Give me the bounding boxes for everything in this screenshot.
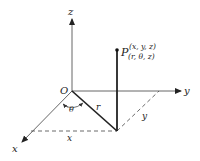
- point-p: [115, 48, 119, 52]
- origin-label: O: [60, 85, 68, 96]
- radius-segment: [72, 91, 117, 131]
- cylindrical-coordinates-diagram: z y x O P (x, y, z) (r, θ, z) r θ x y: [0, 0, 200, 161]
- y-projection-label: y: [141, 111, 148, 121]
- y-projection-dashed: [117, 91, 159, 131]
- z-axis-label: z: [67, 6, 74, 17]
- x-axis-label: x: [12, 143, 18, 154]
- cartesian-coords-label: (x, y, z): [129, 42, 156, 51]
- cylindrical-coords-label: (r, θ, z): [128, 52, 155, 61]
- theta-arc-start: [63, 104, 68, 107]
- theta-label: θ: [69, 105, 74, 114]
- x-projection-label: x: [67, 133, 72, 143]
- y-axis-label: y: [183, 85, 190, 96]
- x-axis: [22, 91, 72, 142]
- radius-label: r: [96, 102, 101, 112]
